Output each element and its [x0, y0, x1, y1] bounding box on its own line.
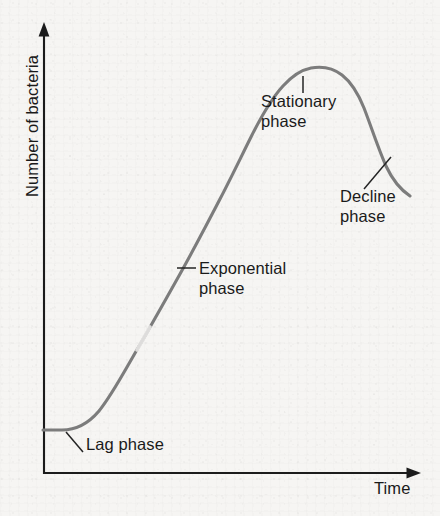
x-axis-arrowhead	[407, 468, 422, 479]
growth-curve-path	[43, 67, 410, 430]
exponential-phase-label: Exponential phase	[199, 258, 286, 298]
decline-phase-leader-line	[364, 157, 391, 189]
lag-phase-label: Lag phase	[86, 434, 164, 454]
decline-phase-label: Decline phase	[340, 186, 396, 226]
growth-curve-figure: Number of bacteria Time Lag phase Expone…	[0, 0, 440, 516]
y-axis-label: Number of bacteria	[22, 31, 42, 221]
x-axis-label: Time	[374, 478, 410, 498]
lag-phase-leader-line	[66, 432, 83, 452]
curve-print-artifact	[137, 327, 150, 350]
stationary-phase-label: Stationary phase	[261, 91, 336, 131]
